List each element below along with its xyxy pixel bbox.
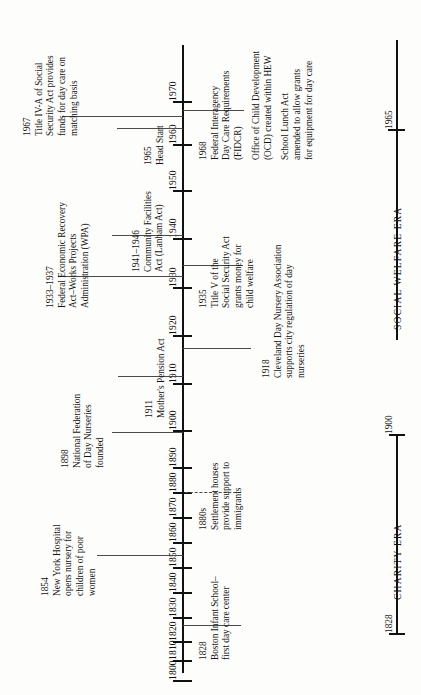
era-label-charity: CHARITY ERA: [392, 523, 403, 600]
event-line: Federal Interagency: [210, 51, 222, 160]
event-line: women: [87, 524, 99, 596]
axis-tick: [173, 190, 192, 192]
event-year: 1918: [261, 245, 273, 378]
axis-tick-label: 1970: [168, 81, 178, 101]
event-1898: 1898 National Federation of Day Nurserie…: [60, 394, 107, 468]
event-line: Social Security Act: [221, 236, 233, 308]
event-line: Federal Economic Recovery: [57, 202, 69, 308]
event-line: matching basis: [69, 55, 81, 136]
axis-tick-label: 1920: [168, 315, 178, 335]
event-line: School Lunch Act: [280, 51, 292, 160]
era-year-label: 1900: [384, 415, 394, 434]
era-bracket-cap-top: [389, 434, 405, 436]
event-line: (OCD) created within HEW: [263, 51, 275, 160]
event-year: 1828: [198, 576, 210, 660]
axis-tick: [173, 335, 192, 337]
event-line: children of poor: [75, 524, 87, 596]
axis-tick: [173, 592, 192, 594]
event-line: National Federation: [72, 394, 84, 468]
event-line: nurseries: [296, 245, 308, 378]
event-line: for equipment for day care: [304, 51, 316, 160]
event-1941-1946: 1941–1946 Community Facilities Act (Lanh…: [131, 191, 166, 272]
event-year: 1967: [22, 55, 34, 136]
timeline-axis: [182, 45, 184, 673]
event-1933-1937: 1933–1937 Federal Economic Recovery Act–…: [45, 202, 92, 308]
era-year-label: 1828: [384, 614, 394, 633]
event-line: New York Hospital: [52, 524, 64, 596]
leader-line-1854: [97, 555, 183, 556]
event-line: funds for day care on: [57, 55, 69, 136]
event-line: (FIDCR): [233, 51, 245, 160]
event-line: amended to allow grants: [292, 51, 304, 160]
event-line: Title IV-A of Social: [34, 55, 46, 136]
event-line: Act (Lanham Act): [154, 191, 166, 272]
event-year: 1935: [198, 236, 210, 308]
event-line: Title V of the: [210, 236, 222, 308]
axis-tick-label: 1860: [168, 522, 178, 542]
event-line: Cleveland Day Nursery Association: [273, 245, 285, 378]
axis-tick: [173, 144, 192, 146]
event-line: Day Care Requirements: [221, 51, 233, 160]
event-line: provide support to: [221, 462, 233, 530]
axis-tick: [173, 101, 192, 103]
event-line: Office of Child Development: [251, 51, 263, 160]
event-line: Mother's Pension Act: [156, 338, 168, 418]
event-line: child welfare: [245, 236, 257, 308]
event-line: opens nursery for: [63, 524, 75, 596]
axis-tick: [173, 238, 192, 240]
event-1935: 1935 Title V of the Social Security Act …: [198, 236, 257, 308]
axis-tick: [173, 467, 192, 469]
event-year: 1933–1937: [45, 202, 57, 308]
axis-tick-label: 1810: [168, 640, 178, 660]
event-line: Community Facilities: [143, 191, 155, 272]
event-line: grants money for: [233, 236, 245, 308]
event-line: Administration (WPA): [80, 202, 92, 308]
era-bracket-cap-bottom: [389, 633, 405, 635]
timeline-figure: 1970 1960 1950 1940 1930 1920 1910 1900 …: [0, 0, 421, 695]
event-year: 1965: [143, 126, 155, 166]
event-line: Settlement houses: [210, 462, 222, 530]
axis-tick: [173, 383, 192, 385]
axis-tick-label: 1880: [168, 472, 178, 492]
axis-tick-label: 1820: [168, 621, 178, 641]
axis-tick: [173, 287, 192, 289]
era-marker-1965: [388, 129, 405, 131]
event-line: immigrants: [233, 462, 245, 530]
era-year-label: 1965: [384, 110, 394, 129]
event-1968: 1968 Federal Interagency Day Care Requir…: [198, 51, 315, 160]
leader-line-1918: [183, 348, 251, 349]
axis-tick: [173, 680, 192, 682]
axis-tick-label: 1900: [168, 410, 178, 430]
event-line: of Day Nurseries: [83, 394, 95, 468]
axis-tick: [173, 567, 192, 569]
event-line: Head Start: [155, 126, 167, 166]
event-line: Security Act provides: [45, 55, 57, 136]
event-year: 1854: [40, 524, 52, 596]
axis-tick: [173, 542, 192, 544]
event-year: 1968: [198, 51, 210, 160]
leader-line-1898: [112, 432, 183, 433]
axis-tick-label: 1930: [168, 267, 178, 287]
event-1918: 1918 Cleveland Day Nursery Association s…: [261, 245, 308, 378]
axis-tick-label: 1830: [168, 597, 178, 617]
event-line: founded: [95, 394, 107, 468]
event-line: supports city regulation of day: [284, 245, 296, 378]
axis-tick-label: 1910: [168, 363, 178, 383]
event-line: Act–Works Projects: [68, 202, 80, 308]
axis-tick-label: 1840: [168, 572, 178, 592]
event-1911: 1911 Mother's Pension Act: [144, 338, 167, 418]
event-1828: 1828 Boston Infant School– first day car…: [198, 576, 233, 660]
event-year: 1941–1946: [131, 191, 143, 272]
event-1880s: 1880s Settlement houses provide support …: [198, 462, 245, 530]
event-1967: 1967 Title IV-A of Social Security Act p…: [22, 55, 81, 136]
event-line: Boston Infant School–: [210, 576, 222, 660]
axis-tick: [173, 617, 192, 619]
event-year: 1880s: [198, 462, 210, 530]
event-1965: 1965 Head Start: [143, 126, 166, 166]
event-year: 1898: [60, 394, 72, 468]
event-year: 1911: [144, 338, 156, 418]
axis-tick-label: 1890: [168, 447, 178, 467]
axis-tick-label: 1850: [168, 547, 178, 567]
event-line: first day care center: [221, 576, 233, 660]
event-1854: 1854 New York Hospital opens nursery for…: [40, 524, 99, 596]
